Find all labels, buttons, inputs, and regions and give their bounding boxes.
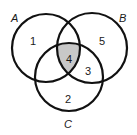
region-label-4: 4	[66, 53, 72, 65]
region-label-5: 5	[99, 35, 105, 47]
set-label-b: B	[119, 12, 126, 24]
set-label-c: C	[64, 118, 72, 130]
region-label-3: 3	[85, 65, 91, 77]
venn-diagram: A B C 1 2 3 4 5	[0, 0, 137, 135]
region-label-1: 1	[30, 35, 36, 47]
region-label-2: 2	[65, 93, 71, 105]
set-label-a: A	[10, 12, 18, 24]
